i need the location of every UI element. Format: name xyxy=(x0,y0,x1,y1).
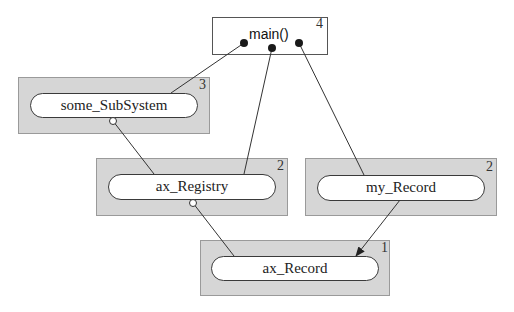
edges-layer xyxy=(0,0,514,312)
diagram-canvas: main() 4 some_SubSystem 3 ax_Registry 2 … xyxy=(0,0,514,312)
edge-some-subsystem-ax-registry xyxy=(113,121,154,174)
edge-my-record-ax-record xyxy=(356,200,400,256)
filled-dot-icon xyxy=(240,39,248,47)
edge-main-ax-registry xyxy=(244,48,272,174)
edge-main-some-subsystem xyxy=(171,43,244,93)
edge-main-my-record xyxy=(299,43,364,175)
filled-dot-icon xyxy=(295,39,303,47)
open-circle-icon xyxy=(110,118,117,125)
edge-ax-registry-ax-record xyxy=(193,203,234,256)
filled-dot-icon xyxy=(268,44,276,52)
open-circle-icon xyxy=(190,200,197,207)
